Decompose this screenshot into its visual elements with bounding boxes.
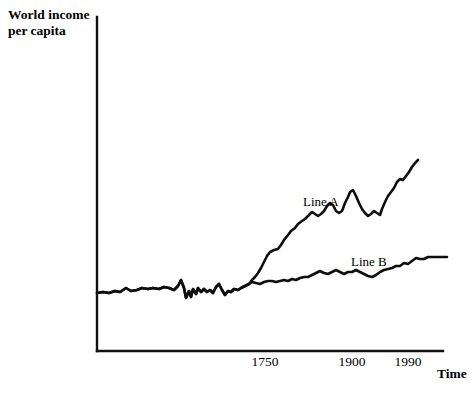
x-tick-label-1990: 1990 — [383, 354, 433, 370]
series-line-b — [97, 257, 447, 298]
data-series-group — [97, 160, 447, 298]
chart-plot-area — [0, 0, 473, 393]
series-annotation-line-a: Line A — [303, 194, 339, 210]
chart-figure: World incomeper capita 1750 1900 1990 Ti… — [0, 0, 473, 393]
y-axis-label: World incomeper capita — [8, 7, 89, 40]
axes-group — [97, 17, 443, 351]
y-axis-label-line1: World income — [8, 7, 89, 22]
x-tick-label-1900: 1900 — [327, 354, 377, 370]
y-axis-label-line2: per capita — [8, 23, 66, 38]
series-annotation-line-b: Line B — [351, 254, 387, 270]
x-axis-label: Time — [437, 366, 467, 382]
x-tick-label-1750: 1750 — [240, 354, 290, 370]
